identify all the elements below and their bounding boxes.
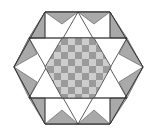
hexagon-star-diagram bbox=[0, 0, 150, 133]
diagram-svg bbox=[0, 0, 150, 133]
